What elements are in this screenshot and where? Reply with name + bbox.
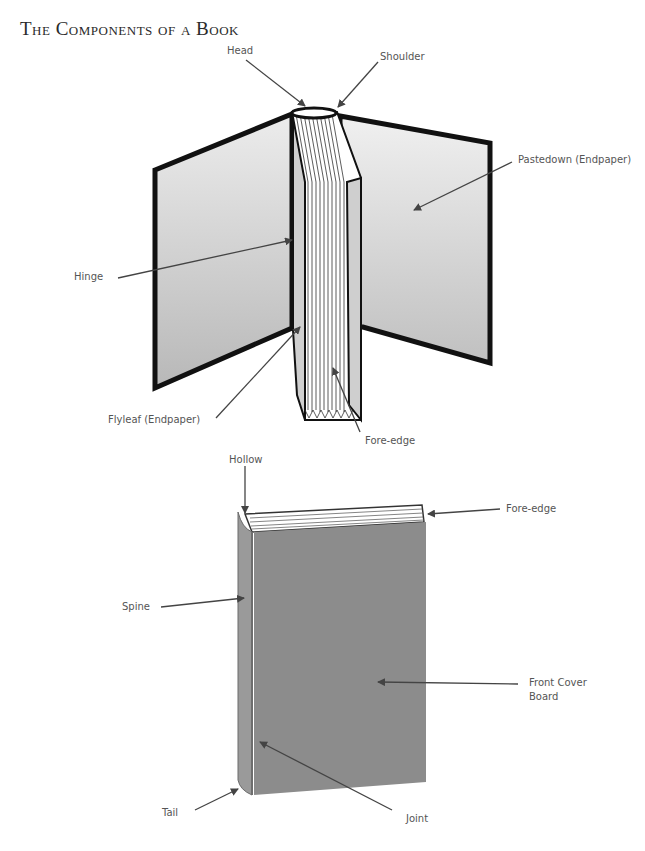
- label-spine: Spine: [122, 600, 150, 614]
- label-hinge: Hinge: [74, 270, 103, 284]
- label-fore-edge: Fore-edge: [365, 434, 415, 448]
- label-head: Head: [227, 44, 253, 58]
- label-joint: Joint: [406, 812, 428, 826]
- left-board: [155, 114, 292, 388]
- label-tail: Tail: [162, 806, 178, 820]
- label-front-cover-board-line2: Board: [529, 690, 558, 704]
- label-front-cover-board-line1: Front Cover: [529, 676, 587, 690]
- open-book-illustration: [155, 108, 490, 420]
- spine: [238, 512, 252, 795]
- label-fore-edge-closed: Fore-edge: [506, 502, 556, 516]
- label-hollow: Hollow: [229, 453, 263, 467]
- label-pastedown: Pastedown (Endpaper): [518, 153, 631, 167]
- closed-book-illustration: [238, 505, 426, 795]
- head-cap: [292, 108, 336, 118]
- label-flyleaf: Flyleaf (Endpaper): [108, 413, 200, 427]
- right-board: [340, 116, 490, 363]
- pastedown-flap: [347, 178, 361, 420]
- label-shoulder: Shoulder: [380, 50, 425, 64]
- front-cover-board: [254, 522, 426, 795]
- book-diagram: [0, 0, 645, 851]
